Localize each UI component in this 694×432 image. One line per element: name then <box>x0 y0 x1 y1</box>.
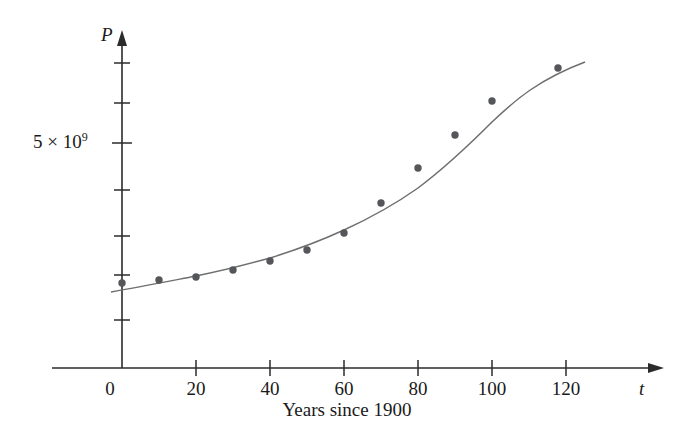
data-point <box>155 276 162 283</box>
data-point <box>377 199 384 206</box>
x-tick-label-20: 20 <box>177 379 215 398</box>
y-axis-value-label: 5 × 109 <box>33 131 88 151</box>
data-point <box>303 246 310 253</box>
data-point <box>451 131 458 138</box>
x-tick-label-60: 60 <box>325 379 363 398</box>
plot-canvas <box>0 0 694 432</box>
y-axis-value-exponent: 9 <box>82 130 88 144</box>
fitted-curve <box>111 62 585 292</box>
data-point <box>229 266 236 273</box>
x-tick-label-40: 40 <box>251 379 289 398</box>
chart-figure: P 5 × 109 0 20 40 60 80 100 120 t Years … <box>0 0 694 432</box>
x-tick-label-120: 120 <box>542 379 590 398</box>
data-point <box>554 64 561 71</box>
y-axis-value-mantissa: 5 × 10 <box>33 131 82 152</box>
x-axis-symbol-label: t <box>639 379 644 398</box>
data-point <box>414 164 421 171</box>
data-point <box>266 257 273 264</box>
x-tick-label-0: 0 <box>97 379 123 398</box>
x-tick-label-100: 100 <box>468 379 516 398</box>
data-point <box>488 97 495 104</box>
data-point <box>118 279 125 286</box>
y-axis-symbol-label: P <box>101 25 113 44</box>
x-tick-label-80: 80 <box>399 379 437 398</box>
x-axis-caption: Years since 1900 <box>0 400 694 419</box>
y-axis-arrowhead <box>117 30 127 46</box>
data-points-group <box>118 64 561 286</box>
data-point <box>192 273 199 280</box>
x-axis-arrowhead <box>648 363 664 373</box>
data-point <box>340 229 347 236</box>
